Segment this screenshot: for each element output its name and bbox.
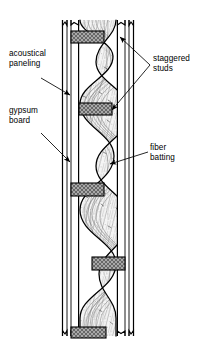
left-wall-assembly bbox=[62, 20, 79, 336]
label-staggered-studs: staggered studs bbox=[153, 54, 190, 74]
label-gypsum-board: gypsum board bbox=[9, 106, 38, 126]
stud-2-right bbox=[79, 103, 112, 115]
label-fiber-batting: fiber batting bbox=[150, 143, 175, 163]
stud-1-left bbox=[71, 31, 104, 43]
stud-5-left bbox=[71, 327, 106, 338]
right-wall-assembly bbox=[117, 20, 134, 336]
stud-3-left bbox=[71, 183, 104, 196]
label-acoustical-paneling: acoustical paneling bbox=[9, 49, 46, 69]
stud-4-right bbox=[92, 257, 125, 270]
